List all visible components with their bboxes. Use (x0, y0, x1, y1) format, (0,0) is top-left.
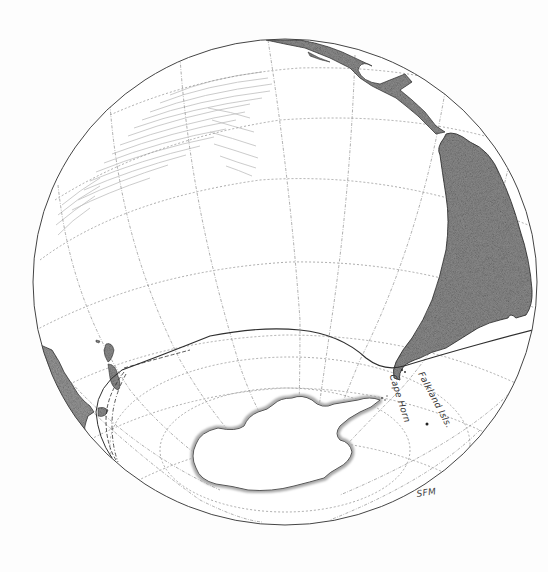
globe-svg (0, 0, 548, 572)
falkland-islands-marker (426, 423, 429, 426)
globe-map: Cape Horn Falkland Isls. SFM (0, 0, 548, 572)
